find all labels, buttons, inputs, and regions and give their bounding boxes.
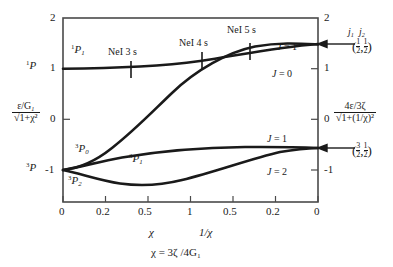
jj-limit-upper: (12,12) (352, 38, 372, 55)
annotation-nei-5s: NeI 5 s (227, 25, 256, 35)
jj-limit-lower: (32,12) (352, 142, 372, 159)
annotation-nei-4s: NeI 4 s (179, 38, 208, 48)
y-axis-left-denominator: √1+χ² (12, 112, 40, 124)
y-tick-right-1: 1 (324, 62, 330, 73)
ls-term-singlet-P: 1P (26, 60, 36, 71)
term-symbol-3P2: 3P2 (68, 175, 82, 188)
y-tick-right-neg1: -1 (324, 164, 333, 175)
x-axis-label-inv-chi: 1/χ (199, 227, 212, 238)
y-axis-ticks-left (63, 69, 70, 170)
y-axis-ticks-right (311, 69, 318, 170)
y-axis-label-left: ε/G1 √1+χ² (12, 101, 40, 124)
y-axis-right-denominator: √1+(1/χ)² (334, 112, 376, 124)
arrow-jj-lower-head (318, 145, 327, 152)
curve-label-J2: J = 2 (267, 167, 287, 177)
x-tick-02-right: 0.2 (266, 206, 280, 217)
curve-label-J1-triplet: J = 1 (267, 134, 287, 144)
x-axis-label-chi: χ (149, 227, 154, 238)
x-tick-02-left: 0.2 (96, 206, 110, 217)
x-tick-0-left: 0 (59, 206, 65, 217)
x-axis-ticks (63, 196, 318, 202)
term-symbol-3P1: 3P1 (129, 153, 143, 166)
figure-caption: χ = 3ζ /4G₁ (151, 247, 201, 258)
y-tick-left-2: 2 (50, 12, 56, 23)
y-axis-label-right: 4ε/3ζ √1+(1/χ)² (334, 101, 376, 124)
y-axis-left-num-sub: 1 (31, 105, 34, 112)
annotation-nei-3s: NeI 3 s (108, 47, 137, 57)
y-tick-left-0: 0 (50, 113, 56, 124)
term-symbol-1P1: 1P1 (71, 44, 85, 57)
y-tick-right-2: 2 (324, 12, 330, 23)
curve-label-J1-singlet: J = 1 (277, 42, 297, 52)
arrow-jj-upper-head (318, 41, 327, 48)
y-tick-left-neg1: -1 (45, 164, 54, 175)
x-tick-0-right: 0 (314, 206, 320, 217)
figure-ls-jj-coupling: 2 1 0 -1 2 1 0 -1 0 0.2 0.5 1 0.5 0.2 0 … (0, 0, 393, 267)
term-symbol-3P0: 3P0 (75, 143, 89, 156)
y-tick-right-0: 0 (324, 113, 330, 124)
x-tick-05-left: 0.5 (138, 206, 152, 217)
ls-term-triplet-P: 3P (26, 162, 36, 173)
x-tick-1-center: 1 (187, 206, 193, 217)
nei-level-ticks (131, 43, 250, 78)
x-tick-05-right: 0.5 (223, 206, 237, 217)
y-axis-right-numerator: 4ε/3ζ (334, 101, 376, 112)
y-axis-left-numerator: ε/G (17, 100, 31, 111)
curve-label-J0: J = 0 (272, 69, 292, 79)
y-tick-left-1: 1 (50, 62, 56, 73)
jj-limit-arrows (318, 41, 355, 152)
